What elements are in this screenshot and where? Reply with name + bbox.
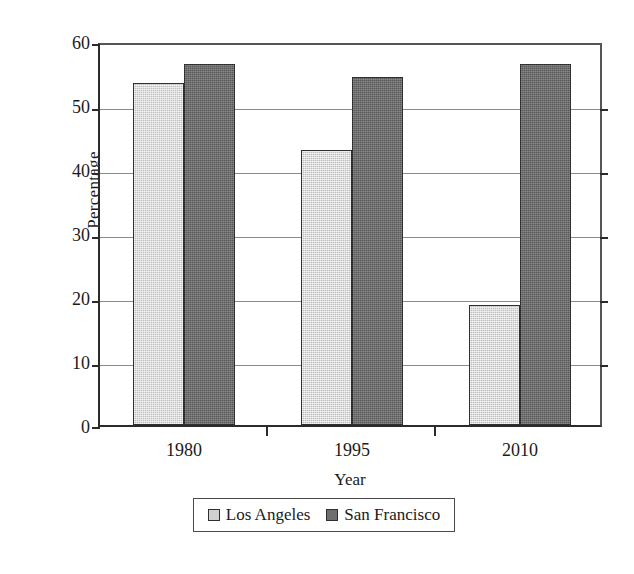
legend-label-los-angeles: Los Angeles: [226, 505, 311, 525]
x-group-separator-1: [266, 427, 268, 436]
y-tick-mark-right-40: [600, 173, 608, 175]
y-tick-mark-60: [92, 44, 100, 46]
y-tick-mark-0: [92, 427, 100, 429]
legend-entry-san-francisco: San Francisco: [326, 505, 440, 525]
x-axis-title: Year: [98, 470, 602, 490]
y-tick-mark-right-50: [600, 109, 608, 111]
x-tick-label-1995: 1995: [292, 440, 412, 461]
y-tick-mark-right-10: [600, 365, 608, 367]
x-tick-label-2010: 2010: [460, 440, 580, 461]
y-tick-mark-right-20: [600, 301, 608, 303]
bar-2010-los-angeles: [469, 305, 520, 425]
y-tick-mark-10: [92, 365, 100, 367]
dark-gray-swatch-icon: [326, 509, 338, 521]
y-tick-label-60: 60: [46, 34, 90, 52]
y-tick-mark-right-30: [600, 237, 608, 239]
plot-area: [98, 43, 602, 427]
bar-2010-san-francisco: [520, 64, 571, 425]
y-tick-mark-40: [92, 173, 100, 175]
y-tick-mark-30: [92, 237, 100, 239]
y-tick-label-10: 10: [46, 354, 90, 372]
y-tick-mark-20: [92, 301, 100, 303]
bar-1995-los-angeles: [301, 150, 352, 426]
bar-1995-san-francisco: [352, 77, 403, 425]
y-tick-label-30: 30: [46, 226, 90, 244]
bars-layer: [100, 45, 600, 425]
legend-entry-los-angeles: Los Angeles: [208, 505, 311, 525]
y-tick-label-20: 20: [46, 290, 90, 308]
bar-1980-los-angeles: [133, 83, 184, 425]
y-tick-label-50: 50: [46, 98, 90, 116]
bar-chart-figure: Percentage 60 50 40 30 20 10 0: [0, 0, 634, 574]
y-tick-label-0: 0: [46, 418, 90, 436]
bar-1980-san-francisco: [184, 64, 235, 425]
y-tick-label-40: 40: [46, 162, 90, 180]
light-gray-swatch-icon: [208, 509, 220, 521]
legend-label-san-francisco: San Francisco: [344, 505, 440, 525]
x-group-separator-2: [434, 427, 436, 436]
x-tick-label-1980: 1980: [124, 440, 244, 461]
chart-legend: Los Angeles San Francisco: [193, 498, 455, 532]
y-tick-mark-50: [92, 109, 100, 111]
